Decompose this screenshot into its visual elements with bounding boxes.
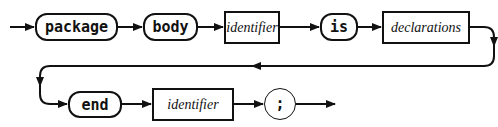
terminal-label: package	[45, 18, 108, 36]
syntax-diagram: package body identifier is declarations …	[0, 0, 498, 127]
nonterminal-declarations: declarations	[382, 11, 470, 44]
terminal-label: ;	[275, 95, 284, 113]
terminal-semicolon: ;	[264, 88, 296, 120]
nonterminal-label: declarations	[391, 20, 461, 36]
nonterminal-label: identifier	[226, 20, 277, 36]
nonterminal-identifier: identifier	[224, 11, 280, 44]
terminal-package: package	[35, 13, 118, 41]
terminal-body: body	[143, 13, 198, 41]
terminal-end: end	[68, 91, 122, 118]
terminal-label: is	[330, 18, 348, 36]
nonterminal-label: identifier	[167, 97, 218, 113]
terminal-label: end	[81, 96, 108, 114]
terminal-label: body	[152, 18, 188, 36]
terminal-is: is	[320, 13, 358, 41]
nonterminal-identifier-end: identifier	[152, 88, 234, 121]
